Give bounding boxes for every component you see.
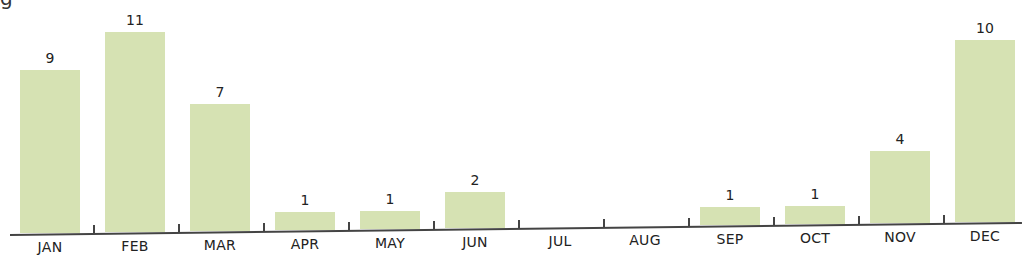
value-label-apr: 1 — [275, 192, 335, 208]
x-axis-tick — [688, 218, 690, 227]
bar-apr — [275, 212, 335, 230]
x-axis-tick — [943, 215, 945, 224]
x-axis-tick — [773, 217, 775, 226]
category-label-dec: DEC — [945, 228, 1022, 244]
bar-oct — [785, 206, 845, 224]
bar-sep — [700, 207, 760, 225]
value-label-jan: 9 — [20, 50, 80, 66]
x-axis-tick — [93, 225, 95, 234]
category-label-oct: OCT — [775, 230, 855, 246]
x-axis-tick — [178, 224, 180, 233]
category-label-jun: JUN — [435, 234, 515, 250]
value-label-nov: 4 — [870, 131, 930, 147]
category-label-jan: JAN — [10, 239, 90, 255]
bar-jan — [20, 70, 80, 234]
value-label-mar: 7 — [190, 84, 250, 100]
category-label-mar: MAR — [180, 237, 260, 253]
bar-feb — [105, 32, 165, 232]
bar-jun — [445, 192, 505, 228]
value-label-sep: 1 — [700, 187, 760, 203]
value-label-dec: 10 — [955, 20, 1015, 36]
value-label-oct: 1 — [785, 186, 845, 202]
category-label-may: MAY — [350, 235, 430, 251]
x-axis-tick — [348, 222, 350, 231]
x-axis-tick — [433, 221, 435, 230]
value-label-feb: 11 — [105, 12, 165, 28]
category-label-sep: SEP — [690, 231, 770, 247]
category-label-feb: FEB — [95, 238, 175, 254]
x-axis-tick — [263, 223, 265, 232]
bar-chart: 9JAN11FEB7MAR1APR1MAY2JUNJULAUG1SEP1OCT4… — [0, 0, 1022, 262]
category-label-aug: AUG — [605, 232, 685, 248]
bar-dec — [955, 40, 1015, 222]
value-label-may: 1 — [360, 191, 420, 207]
x-axis-tick — [858, 216, 860, 225]
bar-mar — [190, 104, 250, 231]
x-axis-tick — [518, 220, 520, 229]
category-label-jul: JUL — [520, 233, 600, 249]
bar-nov — [870, 151, 930, 224]
value-label-jun: 2 — [445, 172, 505, 188]
category-label-apr: APR — [265, 236, 345, 252]
category-label-nov: NOV — [860, 229, 940, 245]
x-axis-tick — [603, 219, 605, 228]
bar-may — [360, 211, 420, 229]
